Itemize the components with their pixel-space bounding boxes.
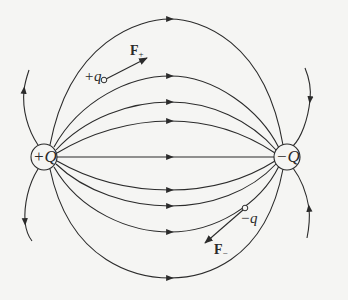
force-symbol: F [214, 242, 223, 257]
force-minus-label: F− [214, 242, 228, 258]
positive-test-label: +q [84, 68, 102, 85]
field-line-left-down [25, 169, 38, 222]
force-plus-subscript: + [139, 49, 144, 59]
positive-charge-label: +Q [33, 147, 57, 167]
field-line-bottom-4 [50, 169, 170, 278]
force-symbol: F [130, 43, 139, 58]
positive-test-charge [101, 77, 107, 83]
negative-test-label: −q [240, 210, 258, 227]
field-line-top-3 [56, 102, 170, 150]
field-line-diagram: +Q −Q +q −q F+ F− [0, 0, 348, 300]
force-minus-subscript: − [223, 248, 228, 258]
force-plus-label: F+ [130, 43, 144, 59]
field-line-right-top [305, 68, 310, 100]
field-line-top-4 [57, 121, 170, 153]
field-line-bottom-1 [57, 161, 170, 190]
field-line-top-2 [54, 76, 170, 147]
field-line-bottom-2 [56, 164, 170, 206]
negative-charge-label: −Q [276, 147, 300, 167]
field-line-left-up [24, 90, 38, 145]
field-line-right-bottom [307, 208, 309, 238]
force-arrow-plus [106, 58, 147, 79]
force-arrow-minus [205, 210, 243, 243]
